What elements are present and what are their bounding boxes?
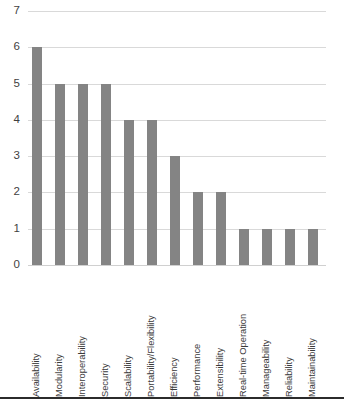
y-tick-label-3: 3 xyxy=(0,150,24,162)
y-tick-label-0: 0 xyxy=(0,259,24,271)
x-label-slot: Scalability xyxy=(124,267,135,397)
x-axis-label: Portability/Flexibility xyxy=(146,315,157,397)
x-axis-label: Performance xyxy=(192,344,203,397)
x-label-slot: Performance xyxy=(193,267,204,397)
x-label-slot: Real-time Operation xyxy=(239,267,250,397)
x-axis-label: Security xyxy=(100,363,111,397)
bar xyxy=(124,120,134,265)
x-axis-label: Maintainability xyxy=(307,338,318,397)
bar xyxy=(32,47,42,265)
x-axis-label: Extensibility xyxy=(215,348,226,397)
x-label-slot: Efficiency xyxy=(170,267,181,397)
bar xyxy=(55,84,65,265)
x-axis-label: Real-time Operation xyxy=(238,314,249,397)
bar xyxy=(239,229,249,265)
x-label-slot: Reliability xyxy=(285,267,296,397)
x-label-slot: Interoperability xyxy=(78,267,89,397)
bottom-horizontal-rule xyxy=(0,397,344,399)
y-tick-label-5: 5 xyxy=(0,78,24,90)
x-axis-label: Manageability xyxy=(261,340,272,397)
x-label-slot: Portability/Flexibility xyxy=(147,267,158,397)
bar xyxy=(78,84,88,265)
bar xyxy=(101,84,111,265)
y-tick-label-2: 2 xyxy=(0,187,24,199)
x-label-slot: Manageability xyxy=(262,267,273,397)
x-axis-label: Reliability xyxy=(284,357,295,397)
y-tick-label-4: 4 xyxy=(0,114,24,126)
x-label-slot: Modularity xyxy=(55,267,66,397)
bar xyxy=(147,120,157,265)
y-tick-label-7: 7 xyxy=(0,5,24,17)
x-label-slot: Maintainability xyxy=(308,267,319,397)
bar xyxy=(285,229,295,265)
x-axis-label: Availability xyxy=(31,353,42,397)
bar xyxy=(308,229,318,265)
bar xyxy=(193,192,203,265)
y-tick-label-6: 6 xyxy=(0,42,24,54)
bar xyxy=(216,192,226,265)
gridline-0 xyxy=(28,265,326,266)
bar xyxy=(262,229,272,265)
bars-layer xyxy=(28,11,326,265)
x-label-slot: Availability xyxy=(32,267,43,397)
x-label-slot: Security xyxy=(101,267,112,397)
x-label-slot: Extensibility xyxy=(216,267,227,397)
bar xyxy=(170,156,180,265)
x-axis-label: Scalability xyxy=(123,355,134,397)
y-tick-label-1: 1 xyxy=(0,223,24,235)
y-axis-tick-labels: 01234567 xyxy=(0,11,24,265)
x-axis-label: Efficiency xyxy=(169,357,180,397)
x-axis-label: Modularity xyxy=(54,354,65,397)
x-axis-label: Interoperability xyxy=(77,336,88,397)
bar-chart-figure: 01234567 AvailabilityModularityInteroper… xyxy=(0,0,344,412)
x-axis-category-labels: AvailabilityModularityInteroperabilitySe… xyxy=(28,267,326,397)
caption-sliver xyxy=(0,403,344,412)
